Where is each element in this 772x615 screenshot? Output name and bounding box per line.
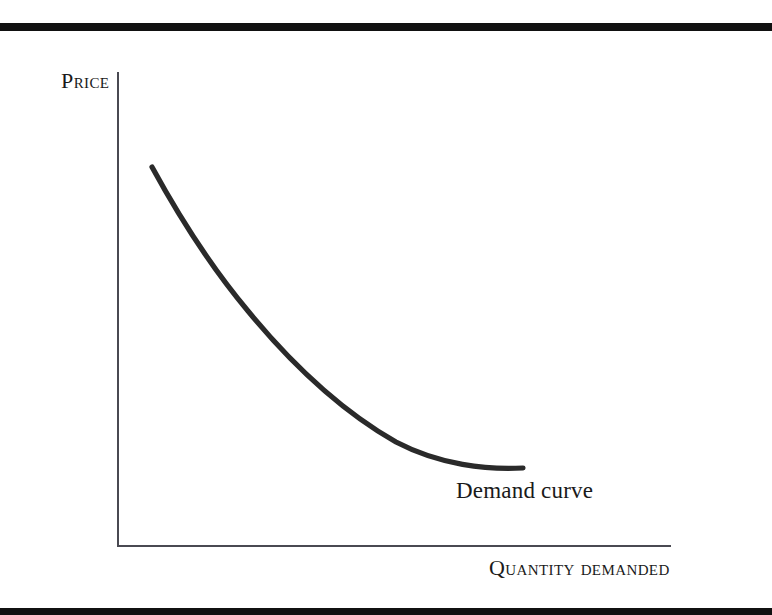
x-axis-line bbox=[117, 545, 671, 547]
y-axis-title: Price bbox=[61, 70, 109, 92]
page-rule-top bbox=[0, 23, 772, 31]
y-axis-line bbox=[117, 72, 119, 547]
demand-curve-figure: Price Quantity demanded Demand curve bbox=[0, 0, 772, 615]
page-rule-bottom bbox=[0, 608, 772, 615]
x-axis-title: Quantity demanded bbox=[489, 557, 670, 579]
demand-curve-label: Demand curve bbox=[456, 479, 593, 502]
demand-curve-path bbox=[152, 167, 523, 468]
demand-curve-plot bbox=[0, 0, 772, 615]
